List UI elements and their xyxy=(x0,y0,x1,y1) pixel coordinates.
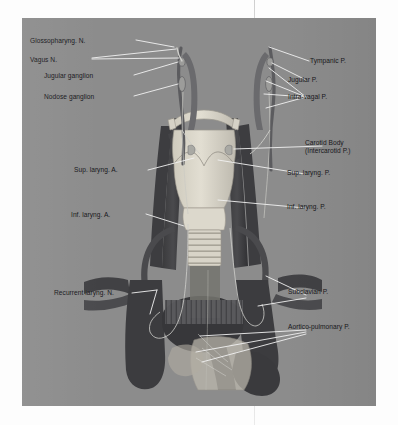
right-vagus-descending-branch xyxy=(264,92,270,218)
label-superior-laryngeal-plexus: Sup. laryng. P. xyxy=(287,169,330,177)
label-tympanic-plexus: Tympanic P. xyxy=(310,57,346,65)
superior-vena-cava xyxy=(125,280,165,389)
leader-tympanic xyxy=(269,47,309,61)
leader-vagus-b xyxy=(92,58,179,59)
label-jugular-ganglion: Jugular ganglion xyxy=(44,72,93,80)
label-inferior-laryngeal-plexus: Inf. laryng. P. xyxy=(287,203,326,211)
right-nodose-ganglion xyxy=(266,77,273,92)
label-jugular-plexus: Jugular P. xyxy=(288,76,317,84)
label-subclavian-plexus: Subclavian P. xyxy=(288,288,328,296)
leader-jugular-ganglion xyxy=(134,62,178,75)
right-jugular-ganglion xyxy=(267,58,273,66)
scanned-figure-page: Glossopharyng. N. Vagus N. Jugular gangl… xyxy=(0,0,398,425)
leader-vagus-a xyxy=(92,49,176,58)
label-glossopharyngeal-nerve: Glossopharyng. N. xyxy=(30,37,85,45)
left-nodose-ganglion xyxy=(179,77,186,92)
carotid-body-left xyxy=(188,145,195,155)
trachea xyxy=(188,230,221,266)
label-recurrent-laryngeal-nerve: Recurrent laryng. N. xyxy=(54,289,114,297)
cricoid-cartilage xyxy=(183,208,226,230)
label-carotid-body-line1: Carotid Body xyxy=(305,139,344,147)
trachea-rings-shadowed xyxy=(165,300,243,324)
right-superior-laryngeal-nerve xyxy=(250,130,270,154)
label-superior-laryngeal-artery: Sup. laryng. A. xyxy=(74,166,118,174)
label-aortico-pulmonary-plexus: Aortico-pulmonary P. xyxy=(288,323,350,331)
left-jugular-ganglion xyxy=(179,58,185,66)
label-intra-vagal-plexus: Intra-vagal P. xyxy=(288,93,327,101)
label-inferior-laryngeal-artery: Inf. laryng. A. xyxy=(71,211,110,219)
carotid-body-right xyxy=(225,145,232,155)
label-vagus-nerve: Vagus N. xyxy=(30,56,57,64)
figure-panel: Glossopharyng. N. Vagus N. Jugular gangl… xyxy=(22,18,376,406)
label-carotid-body-line2: (Intercarotid P.) xyxy=(305,147,350,155)
right-vagus-sheath xyxy=(254,52,269,130)
label-nodose-ganglion: Nodose ganglion xyxy=(44,93,94,101)
leader-glossopharyngeal xyxy=(136,40,174,47)
leader-nodose-ganglion xyxy=(134,84,178,96)
